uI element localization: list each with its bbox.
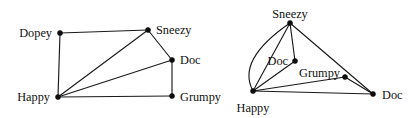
node-label-docfar: Doc bbox=[382, 88, 403, 102]
graph-node-happy bbox=[56, 95, 61, 100]
graph-edge-grumpy2-docfar bbox=[345, 77, 373, 94]
graph-node-docfar bbox=[371, 92, 376, 97]
graph-edge-dopey-sneezy bbox=[60, 30, 148, 33]
graph-edge-dopey-happy bbox=[58, 33, 60, 97]
node-label-grumpy: Grumpy bbox=[180, 90, 222, 104]
nodes-layer bbox=[56, 21, 376, 100]
graph-diagram-canvas: DopeySneezyDocGrumpyHappySneezyDocGrumpy… bbox=[0, 0, 419, 118]
figure-root: DopeySneezyDocGrumpyHappySneezyDocGrumpy… bbox=[0, 0, 419, 118]
graph-edge-happy-doc bbox=[58, 60, 172, 97]
graph-node-happy2 bbox=[251, 89, 256, 94]
labels-layer: DopeySneezyDocGrumpyHappySneezyDocGrumpy… bbox=[17, 7, 403, 115]
graph-node-grumpy bbox=[170, 94, 175, 99]
graph-node-doc2 bbox=[293, 59, 298, 64]
graph-node-dopey bbox=[58, 31, 63, 36]
node-label-happy2: Happy bbox=[237, 101, 271, 115]
graph-edge-sneezy2-doc2 bbox=[290, 23, 295, 61]
node-label-sneezy2: Sneezy bbox=[272, 7, 308, 21]
node-label-sneezy: Sneezy bbox=[156, 23, 192, 37]
node-label-doc: Doc bbox=[180, 53, 201, 67]
graph-edge-happy-sneezy bbox=[58, 30, 148, 97]
node-label-happy: Happy bbox=[17, 90, 51, 104]
edges-layer bbox=[58, 23, 373, 97]
node-label-dopey: Dopey bbox=[19, 26, 53, 40]
graph-node-doc bbox=[170, 58, 175, 63]
graph-edge-happy-grumpy bbox=[58, 96, 172, 97]
node-label-doc2: Doc bbox=[268, 54, 289, 68]
graph-node-grumpy2 bbox=[343, 75, 348, 80]
node-label-grumpy2: Grumpy bbox=[299, 66, 341, 80]
graph-node-sneezy bbox=[146, 28, 151, 33]
graph-edge-happy2-docfar bbox=[253, 91, 373, 94]
